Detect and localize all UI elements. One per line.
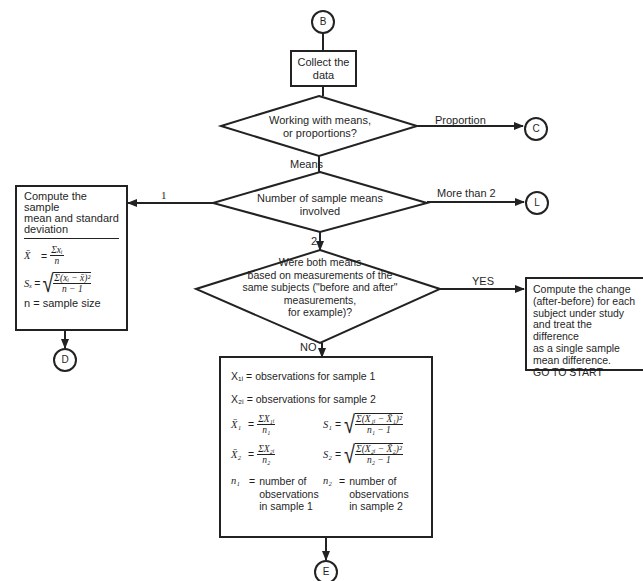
mean2-formula: X̄₂ = ΣX₂ᵢ n₂ [231,443,323,465]
branch-means-label: Means [290,158,323,171]
sd1-formula: S₁ = √ Σ(X₁ᵢ − X̄₁)² n₁ − 1 [323,413,403,435]
paired-line4: and treat the difference [533,319,637,343]
single-mean-box: Compute the sample mean and standard dev… [15,185,128,331]
collect-line2: data [292,69,355,82]
mean-denominator: n [50,256,63,266]
sqrt: √ Σ(xᵢ − x̄)² n − 1 [42,272,91,294]
sd-lhs: Sₓ [24,278,32,289]
paired-line5: as a single sample [533,343,637,355]
x2-definition: X₂ᵢ = observations for sample 2 [231,393,421,406]
n1-definition: n₁ = number of observations in sample 1 [231,475,323,513]
decision3-line2: based on measurements of the [230,269,410,282]
decision3-line4: measurements, [230,294,410,307]
sqrt: √ Σ(X₂ᵢ − X̄₂)² n₂ − 1 [344,443,403,465]
paired-line6: mean difference. [533,355,637,367]
connector-d[interactable]: D [55,354,75,365]
n2-line2: observations [349,488,409,501]
branch-one-label: 1 [161,189,167,202]
paired-go-to-start: GO TO START [533,367,637,379]
sd-formula: Sₓ = √ Σ(xᵢ − x̄)² n − 1 [24,272,119,294]
sd1-fraction: Σ(X₁ᵢ − X̄₁)² n₁ − 1 [355,413,403,435]
mean1-lhs: X̄₁ [231,419,245,430]
connector-b[interactable]: B [313,16,333,27]
decision3-line3: same subjects ("before and after" [230,281,410,294]
mean-numerator: Σxᵢ [50,245,63,256]
mean2-fraction: ΣX₂ᵢ n₂ [257,444,275,465]
equals: = [41,250,47,262]
n1-lhs: n₁ [231,475,245,513]
two-sample-box: X₁ᵢ = observations for sample 1 X₂ᵢ = ob… [219,356,433,538]
sd-fraction: Σ(xᵢ − x̄)² n − 1 [53,272,91,294]
paired-box-text: Compute the change (after-before) for ea… [533,284,637,378]
n2-line1: number of [349,475,409,488]
branch-more-than-two-label: More than 2 [437,187,496,200]
collect-data-step: Collect the data [290,50,357,87]
sd2-numerator: Σ(X₂ᵢ − X̄₂)² [355,444,403,455]
decision-paired-text: Were both means based on measurements of… [230,256,410,319]
n2-text: number of observations in sample 2 [349,475,409,513]
decision-number-of-means-text: Number of sample means involved [245,192,395,218]
sample-size-definitions: n₁ = number of observations in sample 1 … [231,475,421,513]
connector-c[interactable]: C [526,123,546,134]
paired-difference-box: Compute the change (after-before) for ea… [525,277,643,371]
decision3-line1: Were both means [230,256,410,269]
sd1-lhs: S₁ [323,419,332,430]
sd1-denominator: n₁ − 1 [355,425,403,435]
sd-denominator: n − 1 [53,284,91,294]
sample2-formulas: X̄₂ = ΣX₂ᵢ n₂ S₂ = √ Σ(X₂ᵢ − X̄₂)² n₂ − … [231,443,421,465]
n1-text: number of observations in sample 1 [259,475,319,513]
connector-l[interactable]: L [527,197,547,208]
n1-line3: in sample 1 [259,500,319,513]
equals: = [248,418,254,430]
n1-line1: number of [259,475,319,488]
sd2-denominator: n₂ − 1 [355,455,403,465]
n1-line2: observations [259,488,319,501]
single-mean-title-line3: deviation [24,224,119,235]
mean1-denominator: n₁ [257,425,275,435]
equals: = [248,448,254,460]
sd2-fraction: Σ(X₂ᵢ − X̄₂)² n₂ − 1 [355,443,403,465]
mean1-formula: X̄₁ = ΣX₁ᵢ n₁ [231,413,323,435]
mean2-lhs: X̄₂ [231,449,245,460]
decision2-line1: Number of sample means [245,192,395,205]
branch-proportion-label: Proportion [435,114,486,127]
decision3-line5: for example)? [230,306,410,319]
single-mean-title: Compute the sample mean and standard dev… [24,191,119,239]
mean-lhs: X̄ [24,250,38,261]
branch-no-label: NO [300,341,317,354]
sd2-lhs: S₂ [323,449,332,460]
n2-definition: n₂ = number of observations in sample 2 [323,475,409,513]
collect-line1: Collect the [292,56,355,69]
mean1-fraction: ΣX₁ᵢ n₁ [257,414,275,435]
mean2-numerator: ΣX₂ᵢ [257,444,275,455]
decision1-line1: Working with means, [250,114,390,127]
connector-e[interactable]: E [316,566,336,577]
mean1-numerator: ΣX₁ᵢ [257,414,275,425]
decision-means-or-proportions-text: Working with means, or proportions? [250,114,390,140]
equals: = [335,448,341,460]
sample1-formulas: X̄₁ = ΣX₁ᵢ n₁ S₁ = √ Σ(X₁ᵢ − X̄₁)² n₁ − … [231,413,421,435]
equals: = [335,418,341,430]
n2-lhs: n₂ [323,475,335,513]
decision2-line2: involved [245,205,395,218]
equals: = [34,277,40,289]
mean-formula: X̄ = Σxᵢ n [24,245,119,266]
sample-size-def: n = sample size [24,297,119,310]
sd-numerator: Σ(xᵢ − x̄)² [53,273,91,284]
single-mean-title-line1: Compute the sample [24,191,119,213]
paired-line2: (after-before) for each [533,296,637,308]
decision1-line2: or proportions? [250,127,390,140]
n2-line3: in sample 2 [349,500,409,513]
sd2-formula: S₂ = √ Σ(X₂ᵢ − X̄₂)² n₂ − 1 [323,443,403,465]
x1-definition: X₁ᵢ = observations for sample 1 [231,370,421,383]
sd1-numerator: Σ(X₁ᵢ − X̄₁)² [355,414,403,425]
mean-fraction: Σxᵢ n [50,245,63,266]
equals: = [339,475,345,513]
branch-yes-label: YES [472,275,494,288]
branch-two-label: 2 [311,235,317,248]
mean2-denominator: n₂ [257,455,275,465]
equals: = [249,475,255,513]
sqrt: √ Σ(X₁ᵢ − X̄₁)² n₁ − 1 [344,413,403,435]
